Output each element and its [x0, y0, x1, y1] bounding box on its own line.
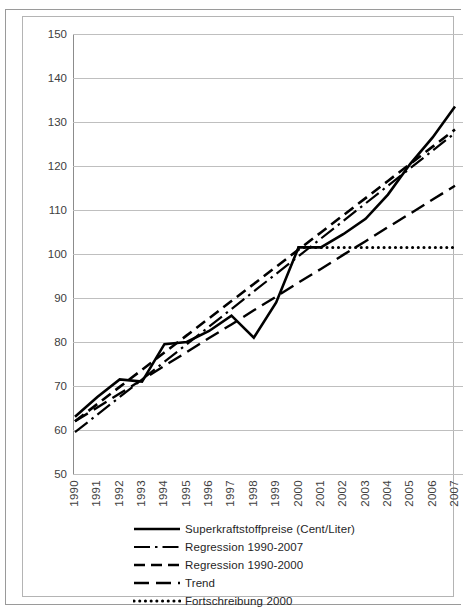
series-line-dashed: [75, 129, 455, 421]
x-tick-2007: 2007: [448, 480, 460, 507]
x-tick-2002: 2002: [336, 480, 348, 507]
series-line-long-dash: [75, 186, 455, 421]
y-tick-70: 70: [23, 380, 67, 392]
x-tick-2001: 2001: [314, 480, 326, 507]
legend-item: Regression 1990-2007: [133, 538, 453, 556]
y-tick-90: 90: [23, 292, 67, 304]
x-tick-2006: 2006: [426, 480, 438, 507]
x-tick-1998: 1998: [247, 480, 259, 507]
legend-item-label: Fortschreibung 2000: [185, 595, 292, 607]
series-line-solid: [75, 107, 455, 417]
y-tick-110: 110: [23, 204, 67, 216]
document-edge-left: [5, 9, 6, 605]
x-tick-2005: 2005: [403, 480, 415, 507]
x-tick-1997: 1997: [224, 480, 236, 507]
x-tick-2003: 2003: [359, 480, 371, 507]
legend-item-label: Regression 1990-2007: [185, 541, 303, 553]
y-tick-60: 60: [23, 424, 67, 436]
legend-key-dash-dot: [133, 540, 181, 554]
legend-item: Trend: [133, 574, 453, 592]
legend-item: Regression 1990-2000: [133, 556, 453, 574]
x-tick-1993: 1993: [135, 480, 147, 507]
chart-legend: Superkraftstoffpreise (Cent/Liter)Regres…: [133, 520, 453, 610]
figure-frame: 5060708090100110120130140150 19901991199…: [22, 16, 454, 597]
y-tick-80: 80: [23, 336, 67, 348]
y-axis-tick-labels: 5060708090100110120130140150: [23, 34, 67, 474]
x-axis-tick-labels: 1990199119921993199419951996199719981999…: [73, 480, 463, 524]
x-tick-1992: 1992: [113, 480, 125, 507]
legend-item-label: Regression 1990-2000: [185, 559, 303, 571]
document-rule-top: [6, 9, 461, 10]
gridline-50: [73, 474, 463, 475]
legend-key-dashed: [133, 558, 181, 572]
x-tick-1991: 1991: [90, 480, 102, 507]
legend-item: Superkraftstoffpreise (Cent/Liter): [133, 520, 453, 538]
x-tick-1999: 1999: [269, 480, 281, 507]
legend-key-dotted: [133, 594, 181, 608]
y-tick-50: 50: [23, 468, 67, 480]
y-tick-150: 150: [23, 28, 67, 40]
x-tick-2000: 2000: [292, 480, 304, 507]
caption-sliver: [203, 12, 323, 22]
plot-area: [73, 34, 463, 474]
x-tick-1995: 1995: [180, 480, 192, 507]
x-tick-1990: 1990: [68, 480, 80, 507]
y-tick-120: 120: [23, 160, 67, 172]
y-tick-140: 140: [23, 72, 67, 84]
legend-key-long-dash: [133, 576, 181, 590]
x-tick-1996: 1996: [202, 480, 214, 507]
legend-key-solid: [133, 522, 181, 536]
legend-item: Fortschreibung 2000: [133, 592, 453, 610]
figure-page: 5060708090100110120130140150 19901991199…: [0, 0, 467, 614]
legend-item-label: Trend: [185, 577, 215, 589]
x-tick-2004: 2004: [381, 480, 393, 507]
x-tick-1994: 1994: [157, 480, 169, 507]
y-tick-130: 130: [23, 116, 67, 128]
legend-item-label: Superkraftstoffpreise (Cent/Liter): [185, 523, 355, 535]
y-tick-100: 100: [23, 248, 67, 260]
series-lines: [73, 34, 463, 474]
